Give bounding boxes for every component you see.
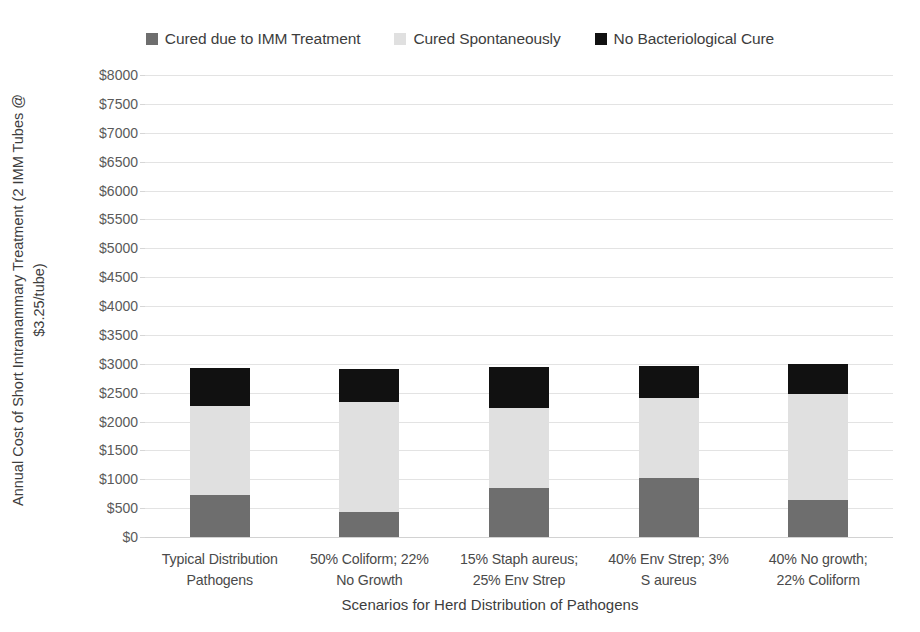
stacked-bar-chart: Cured due to IMM Treatment Cured Spontan… [0,0,920,632]
bar-segment-2[interactable] [788,364,848,394]
x-axis-tick-label-line2: No Growth [295,570,445,591]
x-axis-tick-label-line2: 25% Env Strep [444,570,594,591]
bar-segment-0[interactable] [339,512,399,537]
x-axis-tick-label-line2: Pathogens [145,570,295,591]
bar-segment-2[interactable] [489,367,549,408]
y-axis-tick-label: $2000 [99,414,138,430]
y-axis-tick-label: $3000 [99,356,138,372]
legend-swatch-cured-imm [146,33,158,45]
y-axis-tick-label: $500 [107,500,138,516]
x-axis-tick-label: 40% Env Strep; 3%S aureus [594,549,744,591]
legend-label-cured-spontaneously: Cured Spontaneously [413,30,560,48]
y-axis-tick-label: $1500 [99,442,138,458]
x-axis-tick-label-line1: 40% No growth; [769,551,868,567]
y-axis-title-line1: Annual Cost of Short Intramammary Treatm… [10,94,26,506]
plot-canvas [145,75,893,537]
bar-segment-2[interactable] [339,369,399,402]
bar-segment-1[interactable] [489,408,549,488]
x-axis-tick-label-line1: 15% Staph aureus; [460,551,578,567]
stacked-bar[interactable] [339,369,399,537]
legend-swatch-cured-spontaneously [394,33,406,45]
x-axis-title: Scenarios for Herd Distribution of Patho… [80,596,900,613]
bar-segment-0[interactable] [190,495,250,537]
stacked-bar[interactable] [788,364,848,537]
bar-segment-2[interactable] [190,368,250,406]
y-axis-tick-label: $5500 [99,211,138,227]
y-axis-tick-labels: $8000$7500$7000$6500$6000$5500$5000$4500… [80,68,138,537]
legend-item-cured-imm[interactable]: Cured due to IMM Treatment [146,30,361,48]
x-axis-tick-label-line1: 40% Env Strep; 3% [608,551,728,567]
bar-slot [444,75,594,537]
y-axis-tick-label: $4000 [99,298,138,314]
y-axis-tick-label: $5000 [99,240,138,256]
bar-segment-0[interactable] [489,488,549,537]
stacked-bar[interactable] [639,366,699,537]
y-axis-tick-label: $8000 [99,67,138,83]
x-axis-tick-label-line1: Typical Distribution [162,551,278,567]
x-axis-tick-label-line2: 22% Coliform [743,570,893,591]
y-axis-tick-label: $7000 [99,125,138,141]
chart-legend: Cured due to IMM Treatment Cured Spontan… [0,30,920,48]
y-axis-title-line2: $3.25/tube) [29,94,50,506]
x-axis-tick-label: Typical DistributionPathogens [145,549,295,591]
bar-slot [295,75,445,537]
y-axis-tick-label: $6000 [99,183,138,199]
x-axis-tick-label-line2: S aureus [594,570,744,591]
stacked-bar[interactable] [190,368,250,537]
stacked-bar[interactable] [489,367,549,537]
bar-segment-1[interactable] [639,398,699,478]
bar-slot [743,75,893,537]
x-axis-tick-label: 50% Coliform; 22%No Growth [295,549,445,591]
bar-segment-0[interactable] [639,478,699,537]
y-axis-tick-label: $4500 [99,269,138,285]
bar-segment-1[interactable] [788,394,848,500]
y-axis-tick-label: $1000 [99,471,138,487]
axis-baseline [145,537,893,538]
y-axis-title-wrapper: Annual Cost of Short Intramammary Treatm… [0,60,58,540]
bar-slot [594,75,744,537]
bar-segment-0[interactable] [788,500,848,537]
y-axis-tick-label: $7500 [99,96,138,112]
legend-item-no-cure[interactable]: No Bacteriological Cure [595,30,775,48]
y-axis-title: Annual Cost of Short Intramammary Treatm… [8,94,50,506]
legend-label-no-cure: No Bacteriological Cure [614,30,775,48]
bar-segment-2[interactable] [639,366,699,398]
x-axis-tick-label: 40% No growth;22% Coliform [743,549,893,591]
legend-swatch-no-cure [595,33,607,45]
legend-item-cured-spontaneously[interactable]: Cured Spontaneously [394,30,560,48]
y-axis-tick-label: $2500 [99,385,138,401]
bar-slot [145,75,295,537]
y-axis-tick-label: $0 [122,529,138,545]
y-axis-tick-label: $6500 [99,154,138,170]
x-axis-tick-label: 15% Staph aureus;25% Env Strep [444,549,594,591]
bar-segment-1[interactable] [190,406,250,495]
bar-segment-1[interactable] [339,402,399,512]
plot-area: $8000$7500$7000$6500$6000$5500$5000$4500… [80,68,900,546]
bar-group [145,75,893,537]
x-axis-tick-labels: Typical DistributionPathogens50% Colifor… [145,549,893,591]
y-axis-tick-label: $3500 [99,327,138,343]
legend-label-cured-imm: Cured due to IMM Treatment [165,30,361,48]
x-axis-tick-label-line1: 50% Coliform; 22% [310,551,429,567]
